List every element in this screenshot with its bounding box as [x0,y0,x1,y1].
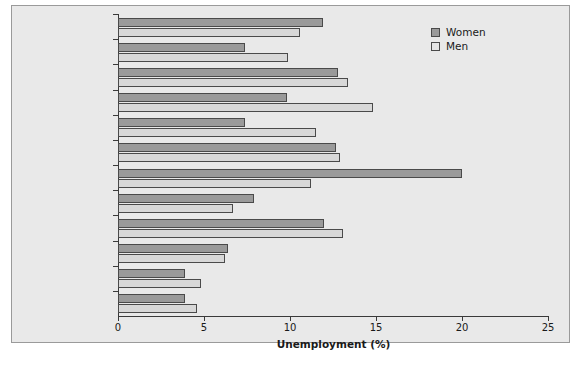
bar-men-4 [118,128,316,137]
y-tick-4 [113,115,118,116]
bar-men-11 [118,304,197,313]
chart-figure: 0510152025 Other ethnic groupsChineseBla… [11,5,570,343]
bar-women-5 [118,143,336,152]
legend-label-men: Men [446,40,468,52]
bar-men-7 [118,204,233,213]
plot-area: 0510152025 Other ethnic groupsChineseBla… [118,14,548,316]
bar-women-9 [118,244,228,253]
legend-swatch-men-icon [431,42,440,51]
legend-label-women: Women [446,26,486,38]
bar-men-9 [118,254,225,263]
bar-women-11 [118,294,185,303]
bar-men-2 [118,78,348,87]
legend-item-men: Men [431,40,486,52]
y-tick-7 [113,190,118,191]
y-tick-9 [113,241,118,242]
x-tick-label-0: 0 [115,322,121,333]
y-tick-11 [113,291,118,292]
x-tick-5 [204,316,205,321]
bar-women-7 [118,194,254,203]
x-tick-25 [548,316,549,321]
y-tick-5 [113,140,118,141]
y-tick-6 [113,165,118,166]
bar-women-2 [118,68,338,77]
bar-men-1 [118,53,288,62]
bar-women-1 [118,43,245,52]
y-tick-1 [113,39,118,40]
bar-women-0 [118,18,323,27]
bar-women-3 [118,93,287,102]
bar-men-5 [118,153,340,162]
bar-men-0 [118,28,300,37]
y-tick-3 [113,90,118,91]
y-tick-2 [113,64,118,65]
y-tick-0 [113,14,118,15]
x-tick-label-15: 15 [370,322,383,333]
bar-men-3 [118,103,373,112]
x-tick-15 [376,316,377,321]
x-tick-label-10: 10 [284,322,297,333]
bar-women-6 [118,169,462,178]
bar-men-8 [118,229,343,238]
x-tick-0 [118,316,119,321]
legend-item-women: Women [431,26,486,38]
y-tick-10 [113,266,118,267]
x-tick-label-25: 25 [542,322,555,333]
x-axis-line [118,316,549,317]
bar-women-10 [118,269,185,278]
bar-women-4 [118,118,245,127]
x-axis-title: Unemployment (%) [118,338,549,350]
bar-women-8 [118,219,324,228]
x-tick-label-5: 5 [201,322,207,333]
bar-men-6 [118,179,311,188]
x-tick-10 [290,316,291,321]
x-tick-label-20: 20 [456,322,469,333]
y-tick-8 [113,215,118,216]
legend-swatch-women-icon [431,28,440,37]
chart-legend: WomenMen [431,26,486,54]
bar-men-10 [118,279,201,288]
x-tick-20 [462,316,463,321]
